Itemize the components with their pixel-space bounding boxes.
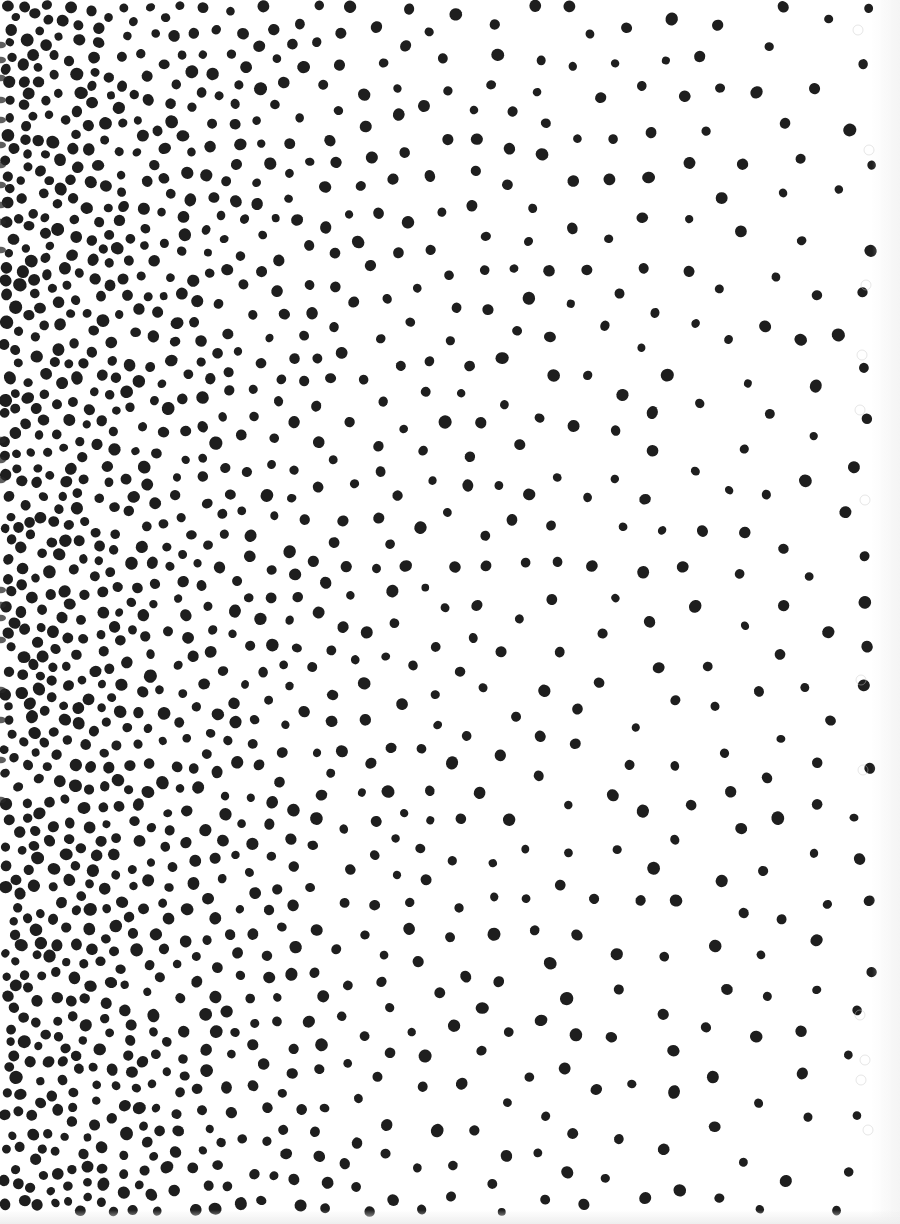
stipple-dot-field bbox=[0, 0, 900, 1224]
scan-edge-shadow-right bbox=[872, 0, 900, 1224]
scan-edge-shadow-bottom bbox=[0, 1210, 900, 1224]
